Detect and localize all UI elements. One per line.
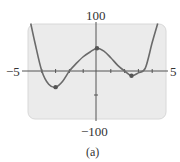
y-max-label: 100	[86, 9, 106, 22]
extremum-dot	[95, 46, 99, 50]
chart-figure: 100 −100 −5 5 (a)	[0, 0, 180, 162]
figure-caption: (a)	[86, 146, 99, 158]
y-min-label: −100	[81, 125, 108, 138]
extremum-dot	[53, 85, 57, 89]
extremum-dot	[129, 74, 133, 78]
x-max-label: 5	[170, 65, 177, 78]
x-min-label: −5	[6, 65, 20, 78]
